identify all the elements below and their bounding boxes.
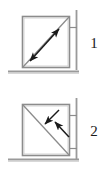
- panel-1-diagonal-line: [23, 17, 69, 67]
- panel-2-arrow-lower: [55, 122, 69, 137]
- panel-2-arrow-upper: [45, 110, 59, 124]
- figure-container: 1 2: [0, 0, 110, 184]
- panel-2-group: 2: [8, 98, 98, 161]
- panel-2-label: 2: [90, 123, 98, 139]
- panel-1-group: 1: [8, 10, 98, 73]
- shear-diagram-svg: 1 2: [0, 0, 110, 184]
- panel-1-double-arrow: [30, 29, 59, 61]
- panel-1-label: 1: [90, 35, 98, 51]
